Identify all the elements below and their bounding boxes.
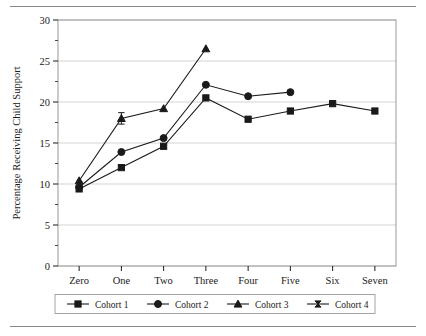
data-point-square [203,95,209,101]
x-tick-label: Zero [69,275,89,286]
data-point-square [330,101,336,107]
data-point-square [372,108,378,114]
y-tick-label: 5 [45,220,50,231]
data-point-circle [155,301,162,308]
y-axis-ticks [53,20,58,266]
data-point-circle [245,93,252,100]
x-tick-label: Six [326,275,341,286]
x-tick-label: Two [154,275,173,286]
y-tick-label: 30 [40,15,51,26]
y-tick-label: 25 [40,56,51,67]
figure-container: 051015202530 ZeroOneTwoThreeFourFiveSixS… [0,0,426,336]
y-axis-tick-labels: 051015202530 [40,15,51,272]
series-line [79,49,206,181]
legend-label: Cohort 1 [95,300,129,310]
x-tick-label: Seven [362,275,388,286]
y-axis-title: Percentage Receiving Child Support [11,66,22,219]
x-tick-label: Four [238,275,258,286]
data-point-circle [118,149,125,156]
legend-label: Cohort 3 [255,300,289,310]
y-tick-label: 10 [40,179,51,190]
series-cohort-3 [75,45,210,184]
data-series-layer [75,45,378,192]
x-tick-label: One [113,275,131,286]
y-tick-label: 15 [40,138,51,149]
data-point-triangle [160,105,168,112]
y-tick-label: 0 [45,261,50,272]
x-axis-tick-labels: ZeroOneTwoThreeFourFiveSixSeven [69,275,388,286]
y-tick-label: 20 [40,97,51,108]
gridlines [58,20,396,266]
data-point-square [245,116,251,122]
x-tick-label: Five [281,275,300,286]
data-point-circle [160,135,167,142]
data-point-square [287,108,293,114]
chart-svg: 051015202530 ZeroOneTwoThreeFourFiveSixS… [0,0,426,336]
series-cohort-1 [76,95,378,192]
data-point-circle [202,81,209,88]
chart-legend: Cohort 1Cohort 2Cohort 3Cohort 4 [55,295,375,314]
legend-label: Cohort 2 [175,300,209,310]
legend-label: Cohort 4 [335,300,369,310]
x-tick-label: Three [194,275,219,286]
data-point-square [75,301,81,307]
data-point-square [161,143,167,149]
series-line [79,98,375,189]
series-line [79,85,290,188]
data-point-circle [287,89,294,96]
data-point-triangle [202,45,210,52]
data-point-square [118,165,124,171]
x-axis-ticks [79,266,375,271]
line-chart: 051015202530 ZeroOneTwoThreeFourFiveSixS… [0,0,426,336]
